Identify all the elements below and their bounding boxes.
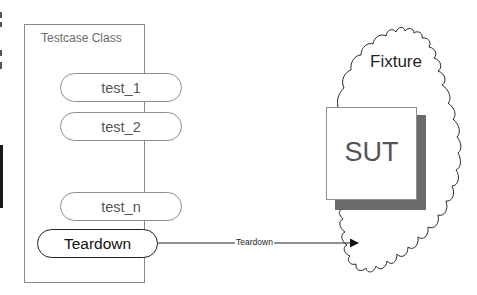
method-test-1[interactable]: test_1 [60, 73, 182, 102]
sut-box[interactable]: SUT [326, 107, 417, 200]
method-label: test_2 [101, 119, 141, 135]
arrowhead-icon [350, 239, 359, 248]
method-label: test_1 [101, 80, 141, 96]
method-test-n[interactable]: test_n [60, 192, 182, 221]
testcase-class-title: Testcase Class [41, 31, 122, 45]
sut-label: SUT [345, 137, 399, 168]
method-test-2[interactable]: test_2 [60, 112, 182, 141]
fixture-label: Fixture [370, 52, 422, 72]
teardown-label: Teardown [64, 235, 131, 253]
method-teardown[interactable]: Teardown [37, 229, 158, 258]
connector-label: Teardown [235, 237, 274, 247]
method-label: test_n [101, 199, 141, 215]
